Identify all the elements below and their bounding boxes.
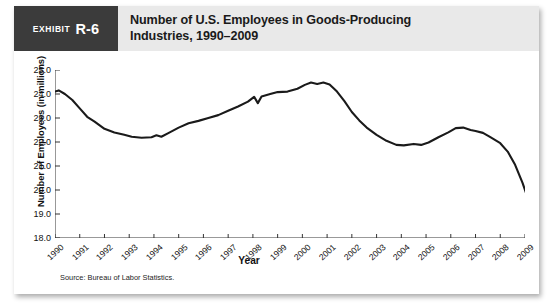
- y-tick-label: 25.0: [33, 65, 51, 75]
- exhibit-number: R-6: [75, 21, 99, 37]
- y-tick-marks: [55, 70, 60, 238]
- y-tick-label: 19.0: [33, 209, 51, 219]
- x-tick-marks: [55, 234, 525, 238]
- chart-body: Number of Employees (in millions) 18.019…: [14, 51, 539, 294]
- exhibit-title: Number of U.S. Employees in Goods-Produc…: [118, 6, 539, 51]
- title-line-1: Number of U.S. Employees in Goods-Produc…: [130, 13, 539, 29]
- x-tick-label: 2008: [490, 242, 511, 262]
- source-note: Source: Bureau of Labor Statistics.: [60, 273, 174, 282]
- y-tick-label: 23.0: [33, 113, 51, 123]
- axis-lines: [55, 70, 525, 238]
- exhibit-word: Exhibit: [33, 24, 71, 34]
- x-tick-label: 2009: [515, 242, 536, 262]
- y-tick-label: 18.0: [33, 233, 51, 243]
- exhibit-figure: Exhibit R-6 Number of U.S. Employees in …: [0, 0, 553, 308]
- y-tick-label: 22.0: [33, 137, 51, 147]
- y-tick-label: 24.0: [33, 89, 51, 99]
- exhibit-header: Exhibit R-6 Number of U.S. Employees in …: [14, 6, 539, 51]
- data-series-line: [55, 82, 525, 227]
- y-tick-label: 20.0: [33, 185, 51, 195]
- line-chart-svg: [55, 70, 525, 238]
- x-axis-label: Year: [14, 255, 484, 266]
- exhibit-card: Exhibit R-6 Number of U.S. Employees in …: [14, 6, 539, 294]
- exhibit-tag: Exhibit R-6: [14, 6, 118, 51]
- title-line-2: Industries, 1990–2009: [130, 29, 539, 45]
- y-tick-label: 21.0: [33, 161, 51, 171]
- plot-area: 18.019.020.021.022.023.024.025.0 1990199…: [55, 70, 525, 238]
